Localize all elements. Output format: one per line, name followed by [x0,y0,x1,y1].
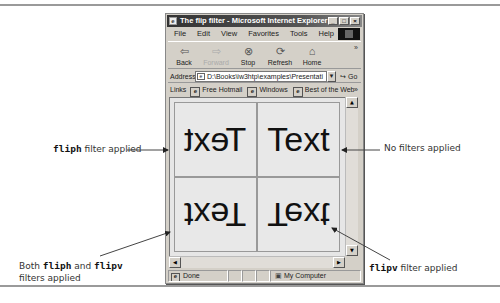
forward-arrow-icon: ⇨ [200,44,232,58]
go-button[interactable]: ↪ Go [340,70,357,83]
back-button[interactable]: ⇦ Back [168,42,200,68]
link-best-of-the-web[interactable]: Best of the Web [293,84,355,96]
menu-file[interactable]: File [174,28,186,40]
address-input[interactable]: e D:\Books\iw3htp\examples\Presentati [195,71,327,82]
forward-button[interactable]: ⇨ Forward [200,42,232,68]
ie-icon: e [169,17,177,25]
links-bar: Links Free Hotmail Windows Best of the W… [168,84,361,96]
status-bar: Done My Computer [168,270,361,282]
flip-table: Text Text Text Text [174,102,340,252]
menu-edit[interactable]: Edit [197,28,210,40]
cell-fliph-flipv: Text [174,177,257,252]
status-pane [256,270,270,282]
scroll-right-button[interactable]: ▶ [333,257,345,268]
stop-button[interactable]: ⊗ Stop [232,42,264,68]
standard-toolbar: ⇦ Back ⇨ Forward ⊗ Stop ⟳ Refresh ⌂ Home… [168,41,361,69]
home-icon: ⌂ [296,44,328,58]
link-windows[interactable]: Windows [247,84,287,96]
cell-no-filter: Text [257,102,340,177]
menu-tools[interactable]: Tools [290,28,308,40]
bottom-rule [0,285,500,287]
cell-flipv: Text [257,177,340,252]
cell-fliph: Text [174,102,257,177]
vertical-scrollbar[interactable]: ▲ ▼ [345,97,358,256]
title-bar[interactable]: e The flip filter - Microsoft Internet E… [167,15,362,27]
status-pane [242,270,256,282]
browser-window: e The flip filter - Microsoft Internet E… [165,13,364,284]
annotation-flipv: flipv filter applied [369,262,457,273]
menu-bar: File Edit View Favorites Tools Help [168,28,361,40]
status-pane [228,270,242,282]
refresh-button[interactable]: ⟳ Refresh [264,42,296,68]
scroll-down-button[interactable]: ▼ [346,245,358,256]
refresh-icon: ⟳ [264,44,296,58]
toolbar-more-chevron[interactable]: » [354,44,358,51]
annotation-no-filter: No filters applied [384,143,461,153]
menu-view[interactable]: View [221,28,237,40]
status-text: Done [168,270,228,282]
scrollbar-corner [345,256,358,268]
annotation-fliph: fliph filter applied [53,143,141,154]
address-label: Address [170,70,196,83]
minimize-button[interactable]: _ [328,17,338,25]
maximize-button[interactable]: □ [339,17,349,25]
windows-logo-throbber [338,28,360,40]
top-rule [0,4,500,6]
link-free-hotmail[interactable]: Free Hotmail [190,84,242,96]
back-arrow-icon: ⇦ [168,44,200,58]
address-bar: Address e D:\Books\iw3htp\examples\Prese… [168,70,361,83]
address-dropdown-button[interactable]: ▼ [327,71,336,82]
window-title: The flip filter - Microsoft Internet Exp… [180,16,328,25]
home-button[interactable]: ⌂ Home [296,42,328,68]
page-content: Text Text Text Text [169,97,345,256]
horizontal-scrollbar[interactable]: ◀ ▶ [169,256,345,268]
page-icon: e [197,73,205,80]
security-zone: My Computer [270,270,361,282]
menu-help[interactable]: Help [319,28,334,40]
links-label: Links [170,84,186,96]
stop-icon: ⊗ [232,44,264,58]
menu-favorites[interactable]: Favorites [248,28,279,40]
close-button[interactable]: × [350,17,360,25]
scroll-left-button[interactable]: ◀ [169,257,181,268]
links-more-chevron[interactable]: » [354,84,358,96]
annotation-both-filters: Both fliph and flipv filters applied [19,260,123,284]
scroll-up-button[interactable]: ▲ [346,97,358,108]
